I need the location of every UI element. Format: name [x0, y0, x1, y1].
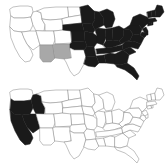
- state-az-2: [40, 128, 55, 145]
- state-ks: [71, 31, 85, 42]
- state-ar-2: [84, 129, 96, 140]
- state-wa: [10, 6, 33, 18]
- state-or-2: [10, 99, 33, 115]
- state-co-2: [54, 113, 72, 127]
- state-fl-2: [115, 146, 139, 163]
- state-nm-2: [53, 127, 71, 142]
- state-layer-top: [10, 5, 164, 80]
- state-in-2: [105, 111, 113, 124]
- state-ar: [84, 46, 96, 57]
- state-mt-2: [37, 90, 69, 103]
- state-al: [104, 53, 115, 64]
- state-wa-2: [10, 89, 33, 101]
- state-or: [10, 16, 33, 32]
- state-fl: [115, 63, 139, 80]
- state-wy-2: [42, 102, 63, 114]
- state-nm: [53, 44, 71, 59]
- state-ma-2: [147, 101, 157, 106]
- state-ok: [70, 41, 87, 50]
- state-az: [40, 45, 55, 62]
- state-ks-2: [71, 114, 85, 125]
- map-figure: [0, 0, 167, 166]
- state-co: [54, 30, 72, 44]
- state-ma: [147, 18, 157, 23]
- state-mn: [80, 5, 95, 24]
- state-mn-2: [80, 88, 95, 107]
- state-mt: [37, 7, 69, 20]
- us-map-bottom-svg: [0, 83, 167, 166]
- state-al-2: [104, 136, 115, 147]
- state-in: [105, 28, 113, 41]
- map-panel-bottom: [0, 83, 167, 166]
- map-panel-top: [0, 0, 167, 83]
- state-ok-2: [70, 124, 87, 133]
- us-map-top-svg: [0, 0, 167, 83]
- state-me: [155, 5, 164, 17]
- state-layer-bottom: [10, 88, 164, 163]
- state-wy: [42, 19, 63, 31]
- state-me-2: [155, 88, 164, 100]
